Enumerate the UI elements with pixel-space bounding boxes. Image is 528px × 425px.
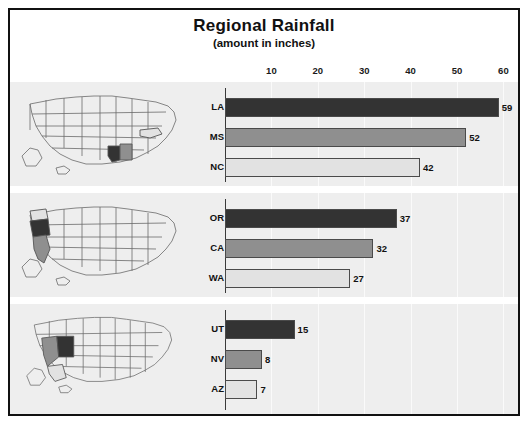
bar-plot-west-coast: OR37CA32WA27	[190, 193, 518, 297]
bar-value-label: 32	[376, 243, 387, 254]
bar-category-label: AZ	[211, 383, 224, 394]
bar-category-label: NC	[210, 161, 224, 172]
bar-value-label: 52	[469, 132, 480, 143]
bar-row[interactable]: OR37	[190, 209, 518, 228]
bar-category-label: UT	[211, 323, 224, 334]
bar-plot-south: LA59MS52NC42	[190, 82, 518, 186]
bar-category-label: WA	[209, 272, 224, 283]
bar-value-label: 8	[265, 354, 270, 365]
bar-value-label: 42	[423, 162, 434, 173]
us-map-west-coast	[16, 197, 188, 293]
bar[interactable]	[225, 269, 350, 288]
bar[interactable]	[225, 380, 257, 399]
bar[interactable]	[225, 209, 397, 228]
x-axis-tick-label: 10	[266, 65, 277, 76]
chart-frame: Regional Rainfall (amount in inches) 102…	[8, 8, 520, 416]
bar[interactable]	[225, 158, 420, 177]
bar-row[interactable]: MS52	[190, 128, 518, 147]
bar-row[interactable]: NV8	[190, 350, 518, 369]
us-map-southwest	[16, 308, 188, 404]
bar-category-label: LA	[211, 101, 224, 112]
bar[interactable]	[225, 128, 466, 147]
bar-value-label: 59	[502, 102, 513, 113]
panel-south: LA59MS52NC42	[10, 82, 518, 186]
us-map-south	[16, 86, 188, 182]
bar-row[interactable]: UT15	[190, 320, 518, 339]
panel-southwest: UT15NV8AZ7	[10, 304, 518, 414]
bar[interactable]	[225, 350, 262, 369]
x-axis-tick-label: 30	[359, 65, 370, 76]
bar-row[interactable]: AZ7	[190, 380, 518, 399]
bar-row[interactable]: WA27	[190, 269, 518, 288]
bar-plot-southwest: UT15NV8AZ7	[190, 304, 518, 414]
bar-row[interactable]: NC42	[190, 158, 518, 177]
panel-west-coast: OR37CA32WA27	[10, 193, 518, 297]
x-axis-tick-label: 60	[498, 65, 509, 76]
bar-category-label: OR	[210, 212, 224, 223]
title-block: Regional Rainfall (amount in inches)	[10, 10, 518, 62]
bar-value-label: 7	[260, 384, 265, 395]
bar[interactable]	[225, 239, 373, 258]
bar-value-label: 27	[353, 273, 364, 284]
x-axis-tick-label: 20	[313, 65, 324, 76]
x-axis-tick-label: 50	[452, 65, 463, 76]
bar-value-label: 37	[400, 213, 411, 224]
bar-value-label: 15	[298, 324, 309, 335]
bar-category-label: NV	[211, 353, 224, 364]
x-axis-tick-strip: 102030405060	[10, 62, 518, 82]
page-title: Regional Rainfall	[10, 10, 518, 36]
bar-category-label: CA	[210, 242, 224, 253]
chart-subtitle: (amount in inches)	[10, 36, 518, 49]
bar-row[interactable]: CA32	[190, 239, 518, 258]
x-axis-tick-label: 40	[405, 65, 416, 76]
bar[interactable]	[225, 320, 295, 339]
bar-category-label: MS	[210, 131, 224, 142]
bar-row[interactable]: LA59	[190, 98, 518, 117]
bar[interactable]	[225, 98, 499, 117]
